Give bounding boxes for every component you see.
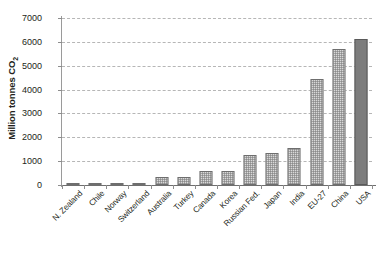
bar[interactable] bbox=[332, 49, 345, 185]
y-axis-title-text: Million tonnes CO bbox=[6, 60, 17, 139]
bar[interactable] bbox=[67, 183, 80, 185]
x-axis-tick-label: EU-27 bbox=[306, 189, 328, 211]
bar-slot bbox=[84, 18, 106, 185]
x-axis-tick-label: Korea bbox=[218, 189, 239, 210]
x-axis-tick-label: Russian Fed. bbox=[222, 189, 261, 228]
y-axis-tick-label: 1000 bbox=[2, 156, 42, 166]
bar[interactable] bbox=[177, 177, 190, 185]
bar-slot bbox=[328, 18, 350, 185]
x-axis-line bbox=[58, 185, 376, 186]
bar-slot bbox=[195, 18, 217, 185]
y-axis-title: Million tonnes CO2 bbox=[0, 0, 24, 196]
bar-slot bbox=[173, 18, 195, 185]
bar[interactable] bbox=[266, 153, 279, 185]
bar[interactable] bbox=[244, 155, 257, 185]
bar-slot bbox=[350, 18, 372, 185]
bar[interactable] bbox=[155, 177, 168, 185]
bar[interactable] bbox=[288, 148, 301, 185]
x-axis-tick-label: Switzerland bbox=[116, 189, 151, 224]
y-axis-tick-label: 3000 bbox=[2, 108, 42, 118]
y-axis-tick-label: 4000 bbox=[2, 85, 42, 95]
bar[interactable] bbox=[354, 39, 367, 185]
x-axis-tick-label: Chile bbox=[88, 189, 107, 208]
bar[interactable] bbox=[89, 183, 102, 185]
y-axis-tick-label: 7000 bbox=[2, 13, 42, 23]
x-axis-tick-label: China bbox=[329, 189, 350, 210]
x-axis-tick-label: Norway bbox=[103, 189, 128, 214]
bar[interactable] bbox=[133, 183, 146, 185]
x-axis-tick-label: Canada bbox=[191, 189, 217, 215]
bars-layer bbox=[62, 18, 372, 185]
bar-slot bbox=[217, 18, 239, 185]
y-axis-tick-mark bbox=[58, 185, 62, 186]
bar[interactable] bbox=[222, 171, 235, 185]
bar-slot bbox=[151, 18, 173, 185]
bar-chart: Million tonnes CO2 010002000300040005000… bbox=[0, 0, 390, 254]
bar-slot bbox=[128, 18, 150, 185]
bar-slot bbox=[62, 18, 84, 185]
y-axis-tick-label: 6000 bbox=[2, 37, 42, 47]
bar[interactable] bbox=[310, 79, 323, 185]
x-axis-tick-label: Australia bbox=[145, 189, 173, 217]
bar[interactable] bbox=[111, 183, 124, 185]
bar-slot bbox=[106, 18, 128, 185]
bar-slot bbox=[283, 18, 305, 185]
y-axis-tick-label: 2000 bbox=[2, 132, 42, 142]
bar[interactable] bbox=[199, 171, 212, 185]
bar-slot bbox=[261, 18, 283, 185]
bar-slot bbox=[239, 18, 261, 185]
x-axis-tick-label: USA bbox=[354, 189, 372, 207]
y-axis-tick-label: 0 bbox=[2, 180, 42, 190]
plot-area: 01000200030004000500060007000 bbox=[62, 18, 372, 185]
x-axis-tick-label: Turkey bbox=[172, 189, 195, 212]
y-axis-tick-label: 5000 bbox=[2, 61, 42, 71]
x-axis-tick-label: N. Zealand bbox=[51, 189, 85, 223]
x-axis-tick-label: Japan bbox=[262, 189, 284, 211]
x-axis-tick-label: India bbox=[287, 189, 305, 207]
bar-slot bbox=[306, 18, 328, 185]
